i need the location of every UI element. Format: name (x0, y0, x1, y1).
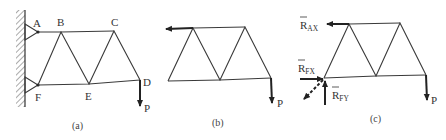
label-c: C (111, 16, 118, 28)
label-p-a: P (144, 102, 150, 114)
bottom-chord (324, 75, 426, 78)
reaction-arrow-top (166, 28, 193, 29)
panel-c: RAX RFX RFY P (c) (298, 17, 437, 125)
label-e: E (85, 90, 92, 102)
load-arrow-p (426, 75, 427, 100)
label-rfx: RFX (298, 60, 316, 76)
svg-text:RAX: RAX (300, 19, 319, 33)
wall-hatch (16, 10, 25, 107)
label-rfy: RFY (332, 87, 350, 103)
panel-b: P (b) (166, 27, 283, 129)
caption-a: (a) (72, 120, 83, 132)
svg-text:RFY: RFY (332, 89, 350, 103)
label-p-b: P (277, 97, 283, 109)
truss-figure: A B C D E F P (a) P (b) RAX (0, 0, 446, 140)
label-f: F (35, 91, 41, 103)
web-members (38, 31, 140, 85)
load-arrow-p (271, 78, 272, 103)
web-members (168, 27, 271, 81)
resultant-arrow-dashed (304, 80, 323, 99)
label-b: B (57, 16, 64, 28)
label-rax: RAX (300, 17, 319, 33)
top-chord (38, 31, 114, 32)
top-chord (349, 23, 400, 24)
label-d: D (143, 76, 151, 88)
top-chord (193, 27, 245, 28)
label-p-c: P (431, 94, 437, 106)
label-a: A (33, 17, 41, 29)
caption-b: (b) (212, 117, 224, 129)
svg-text:RFX: RFX (298, 62, 316, 76)
web-members (324, 23, 426, 78)
caption-c: (c) (370, 113, 381, 125)
panel-a: A B C D E F P (a) (16, 10, 151, 132)
